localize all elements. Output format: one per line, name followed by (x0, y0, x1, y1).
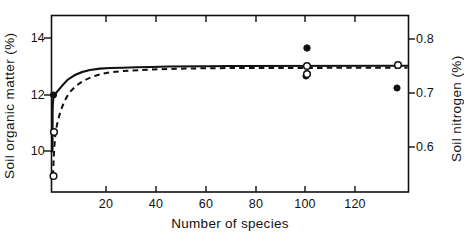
data-point-open (50, 173, 57, 180)
curve-soil-nitrogen (53, 68, 408, 176)
x-axis-ticks-bottom (106, 186, 355, 192)
plot-area (0, 0, 465, 244)
data-point-open (304, 63, 311, 70)
curve-soil-organic-matter (53, 66, 408, 152)
markers-filled-circle (50, 45, 400, 98)
data-point-open (304, 71, 311, 78)
markers-open-circle (50, 62, 401, 180)
data-point-filled (50, 92, 56, 98)
data-point-open (395, 62, 402, 69)
data-point-filled (394, 85, 400, 91)
data-point-filled (304, 45, 310, 51)
figure-container: Soil organic matter (%) Soil nitrogen (%… (0, 0, 465, 244)
plot-frame (52, 16, 409, 193)
data-point-open (51, 129, 58, 136)
x-axis-ticks-top (106, 16, 355, 22)
